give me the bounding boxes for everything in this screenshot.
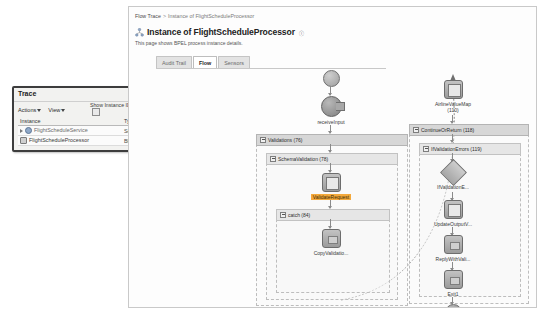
flow-node-start[interactable]: [309, 70, 353, 87]
decision-icon-wrap: [442, 161, 464, 183]
flow-arrow: [330, 144, 331, 152]
flow-node-update-output[interactable]: UpdateOutputV...: [427, 200, 479, 227]
flow-arrow: [452, 115, 453, 123]
scope-validations[interactable]: Validations (76): [256, 134, 408, 146]
flow-node-exit1[interactable]: Exit1: [433, 270, 473, 297]
breadcrumb: Flow Trace>Instance of FlightSchedulePro…: [135, 13, 254, 19]
assign-glyph-icon: [328, 236, 338, 244]
assign-icon: [444, 200, 463, 219]
exit-glyph-icon: [450, 277, 460, 285]
flow-node-reply-with-validation[interactable]: ReplyWithVali...: [427, 235, 479, 262]
flow-arrow: [330, 125, 331, 133]
scope-label: Validations (76): [268, 137, 302, 143]
end-circle-icon: [445, 304, 462, 308]
row-expander-icon[interactable]: [20, 129, 23, 133]
reply-icon: [444, 235, 463, 254]
scope-catch[interactable]: catch (84): [276, 209, 390, 221]
page-title-row: Instance of FlightScheduleProcessor ⓘ: [135, 27, 304, 37]
view-menu-label: View: [48, 107, 60, 113]
flow-arrow: [452, 134, 453, 142]
flow-arrow: [452, 262, 453, 270]
actions-menu-label: Actions: [18, 107, 36, 113]
activity-icon: [322, 173, 341, 192]
collapse-icon[interactable]: [260, 137, 266, 143]
scope-if-validation-errors[interactable]: IfValidationErrors (119): [419, 143, 521, 155]
flow-canvas[interactable]: receiveInput Validations (76) SchemaVali…: [131, 70, 534, 305]
scope-label: catch (84): [288, 212, 310, 218]
start-circle-icon: [323, 70, 340, 87]
flow-node-label: CopyValidatio...: [305, 250, 357, 256]
flow-arrow: [330, 86, 331, 95]
collapse-icon[interactable]: [423, 146, 429, 152]
breadcrumb-separator: >: [163, 13, 166, 19]
instance-name[interactable]: FlightScheduleService: [34, 127, 88, 133]
bpel-icon: [20, 137, 27, 144]
flow-arrow: [330, 219, 331, 228]
scope-label: IfValidationErrors (119): [431, 146, 482, 152]
decision-icon: [440, 159, 467, 186]
collapse-icon[interactable]: [270, 156, 276, 162]
cell-instance[interactable]: FlightScheduleService: [18, 126, 122, 136]
view-menu[interactable]: View: [48, 107, 65, 113]
flow-arrow: [452, 297, 453, 304]
receive-activity-icon: [321, 96, 342, 117]
flow-arrow: [330, 163, 331, 172]
scope-continue-or-return[interactable]: ContinueOrReturn (118): [409, 124, 529, 136]
page-frame: Flow Trace>Instance of FlightSchedulePro…: [128, 6, 537, 308]
flow-node-validate-request[interactable]: ValidateRequest: [307, 173, 355, 200]
breadcrumb-root[interactable]: Flow Trace: [135, 13, 161, 19]
show-instance-ids-checkbox[interactable]: [92, 108, 100, 116]
actions-menu[interactable]: Actions: [18, 107, 41, 113]
flow-arrow: [452, 227, 453, 235]
process-icon: [135, 28, 144, 37]
scope-schema-validation[interactable]: SchemaValidation (78): [266, 153, 398, 165]
collapse-icon[interactable]: [280, 212, 286, 218]
breadcrumb-current: Instance of FlightScheduleProcessor: [168, 13, 254, 19]
flow-arrow: [452, 192, 453, 200]
page-title: Instance of FlightScheduleProcessor: [147, 27, 295, 37]
flow-node-label: receiveInput: [307, 119, 355, 125]
page-description: This page shows BPEL process instance de…: [135, 40, 243, 46]
chevron-down-icon: [61, 109, 65, 112]
instance-name[interactable]: FlightScheduleProcessor: [29, 137, 89, 143]
scope-label: SchemaValidation (78): [278, 156, 328, 162]
activity-glyph-icon: [326, 177, 339, 190]
assign-icon: [322, 229, 341, 248]
transform-icon: [444, 80, 463, 99]
transform-glyph-icon: [448, 84, 461, 97]
info-icon[interactable]: ⓘ: [299, 29, 304, 36]
flow-node-end[interactable]: [433, 304, 473, 308]
flow-node-if-validation-errors[interactable]: IfValidationE...: [429, 161, 477, 190]
scope-label: ContinueOrReturn (118): [421, 127, 474, 133]
flow-arrow: [330, 200, 331, 208]
chevron-down-icon: [37, 109, 41, 112]
column-header-instance[interactable]: Instance: [18, 117, 122, 126]
flow-node-receive-input[interactable]: receiveInput: [307, 96, 355, 125]
cell-instance[interactable]: FlightScheduleProcessor: [18, 136, 122, 146]
flow-node-airline-value-map[interactable]: AirlineValueMap (110): [429, 80, 477, 113]
flow-node-label: UpdateOutputV...: [427, 221, 479, 227]
flow-node-id: (110): [429, 107, 477, 113]
flow-node-copy-validation[interactable]: CopyValidatio...: [305, 229, 357, 256]
collapse-icon[interactable]: [413, 127, 419, 133]
flow-node-label: ReplyWithVali...: [427, 256, 479, 262]
assign-glyph-icon: [448, 204, 461, 217]
flow-node-label: Exit1: [433, 291, 473, 297]
reply-glyph-icon: [450, 242, 460, 250]
exit-icon: [444, 270, 463, 289]
trace-panel-title: Trace: [18, 90, 36, 97]
tab-underline: [156, 68, 386, 69]
service-icon: [25, 127, 32, 134]
screen-root: Trace Actions View Show Instance IDs Ins…: [0, 0, 541, 317]
